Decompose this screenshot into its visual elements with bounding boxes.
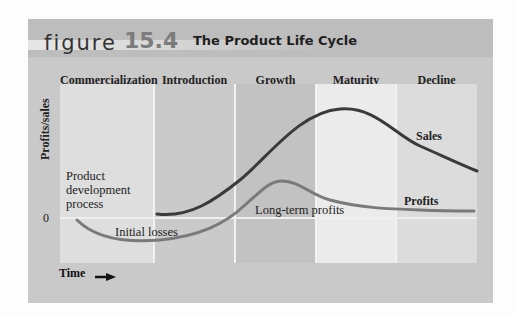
zero-tick-label: 0 (43, 211, 49, 226)
profits-label: Profits (404, 194, 438, 209)
time-arrow-head-icon (106, 273, 116, 281)
product-development-annotation: Product development process (66, 169, 131, 211)
initial-losses-annotation: Initial losses (115, 225, 178, 239)
product-dev-line3: process (66, 197, 131, 211)
y-axis-label: Profits/sales (38, 98, 53, 160)
product-dev-line1: Product (66, 169, 131, 183)
sales-label: Sales (416, 129, 442, 144)
long-term-profits-annotation: Long-term profits (255, 203, 344, 217)
x-axis-label: Time (59, 266, 85, 281)
product-dev-line2: development (66, 183, 131, 197)
